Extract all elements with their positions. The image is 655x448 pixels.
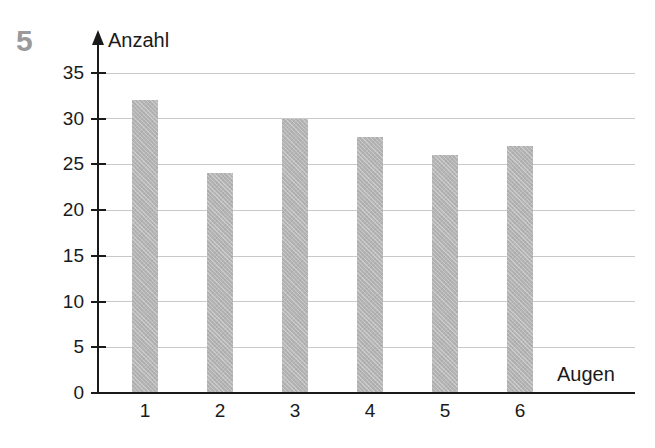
x-tick-label-6: 6 xyxy=(500,400,540,422)
bar-4 xyxy=(357,137,383,392)
y-tick-label-5: 5 xyxy=(38,337,84,356)
y-axis-arrow-icon xyxy=(92,30,104,45)
x-axis-line xyxy=(98,392,635,394)
y-axis-line xyxy=(97,44,99,393)
y-tick-mark-35 xyxy=(91,72,106,74)
y-tick-mark-15 xyxy=(91,255,106,257)
y-tick-label-20: 20 xyxy=(38,200,84,219)
y-tick-mark-20 xyxy=(91,209,106,211)
y-tick-mark-30 xyxy=(91,118,106,120)
x-axis-title: Augen xyxy=(557,363,615,385)
y-tick-label-0: 0 xyxy=(38,383,84,402)
bar-6 xyxy=(507,146,533,392)
y-tick-label-35: 35 xyxy=(38,63,84,82)
bar-2 xyxy=(207,173,233,392)
y-tick-mark-5 xyxy=(91,346,106,348)
y-tick-label-30: 30 xyxy=(38,109,84,128)
bar-3 xyxy=(282,119,308,392)
bar-1 xyxy=(132,100,158,392)
gridline-30 xyxy=(98,118,635,119)
y-axis-title: Anzahl xyxy=(108,29,169,51)
y-tick-label-15: 15 xyxy=(38,246,84,265)
x-tick-label-4: 4 xyxy=(350,400,390,422)
exercise-number: 5 xyxy=(16,26,33,56)
x-tick-label-5: 5 xyxy=(425,400,465,422)
y-tick-mark-25 xyxy=(91,163,106,165)
x-tick-label-3: 3 xyxy=(275,400,315,422)
y-tick-label-25: 25 xyxy=(38,154,84,173)
bar-chart: 5 35 30 25 20 15 10 5 0 1 2 3 4 5 6 Anza… xyxy=(0,0,655,448)
y-tick-label-10: 10 xyxy=(38,292,84,311)
x-tick-label-2: 2 xyxy=(200,400,240,422)
bar-5 xyxy=(432,155,458,392)
gridline-35 xyxy=(98,73,635,74)
x-tick-label-1: 1 xyxy=(125,400,165,422)
y-tick-mark-0 xyxy=(91,392,106,394)
y-tick-mark-10 xyxy=(91,301,106,303)
